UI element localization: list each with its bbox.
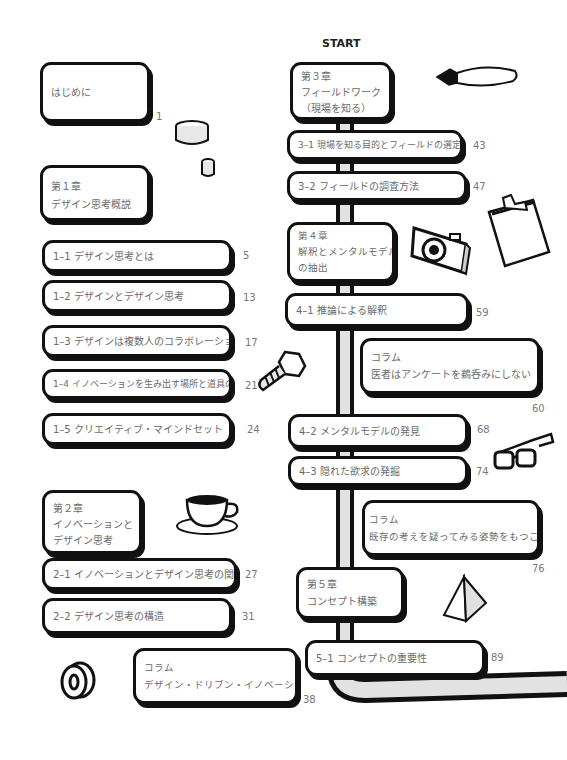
intro-title: はじめに (51, 84, 139, 101)
section-3-1[interactable]: 3–1 現場を知る目的とフィールドの選定 (287, 130, 463, 160)
section-1-3[interactable]: 1–3 デザインは複数人のコラボレーション (42, 325, 232, 357)
camera-icon (410, 220, 472, 276)
section-label: 4–1 推論による解釈 (296, 302, 458, 319)
section-label: 2–1 イノベーションとデザイン思考の関係 (53, 566, 226, 583)
section-1-5[interactable]: 1–5 クリエイティブ・マインドセット (42, 413, 232, 445)
section-1-4[interactable]: 1–4 イノベーションを生み出す場所と道具の確保 (42, 369, 232, 399)
tape-roll-icon (58, 660, 98, 702)
chapter4-title-line2: の抽出 (298, 260, 384, 276)
section-page: 59 (476, 307, 489, 318)
section-label: 1–4 イノベーションを生み出す場所と道具の確保 (53, 376, 221, 393)
column-design-driven[interactable]: コラム デザイン・ドリブン・イノベーション (133, 648, 298, 704)
column-heading: コラム (144, 659, 287, 676)
chapter3-title-line2: （現場を知る） (301, 101, 381, 117)
section-page: 5 (243, 250, 249, 261)
section-1-1[interactable]: 1–1 デザイン思考とは (42, 240, 232, 272)
chapter1-box[interactable]: 第１章 デザイン思考概説 (40, 165, 150, 221)
section-label: 3–2 フィールドの調査方法 (298, 178, 456, 195)
column-page: 38 (303, 694, 316, 705)
section-2-1[interactable]: 2–1 イノベーションとデザイン思考の関係 (42, 558, 237, 590)
section-label: 1–2 デザインとデザイン思考 (53, 288, 221, 305)
glasses-icon (493, 430, 558, 475)
section-label: 1–3 デザインは複数人のコラボレーション (53, 333, 221, 350)
column-title: 医者はアンケートを鵜呑みにしない (371, 366, 529, 383)
section-5-1[interactable]: 5–1 コンセプトの重要性 (305, 640, 485, 676)
cup-icon (172, 120, 222, 180)
section-page: 27 (245, 569, 258, 580)
column-heading: コラム (371, 349, 529, 366)
section-label: 4–3 隠れた欲求の発掘 (299, 463, 457, 480)
chapter5-number: 第５章 (307, 576, 393, 593)
column-title: デザイン・ドリブン・イノベーション (144, 676, 287, 693)
column-page: 60 (532, 403, 545, 414)
section-page: 17 (245, 337, 258, 348)
section-4-1[interactable]: 4–1 推論による解釈 (285, 293, 469, 327)
section-label: 5–1 コンセプトの重要性 (316, 650, 474, 667)
start-label: START (322, 37, 361, 50)
column-page: 76 (532, 563, 545, 574)
section-1-2[interactable]: 1–2 デザインとデザイン思考 (42, 280, 232, 312)
bolt-icon (255, 350, 315, 395)
section-page: 13 (243, 292, 256, 303)
chapter3-box[interactable]: 第３章 フィールドワーク （現場を知る） (290, 62, 392, 120)
section-label: 1–5 クリエイティブ・マインドセット (53, 421, 221, 438)
chapter5-title: コンセプト構築 (307, 593, 393, 610)
column-heading: コラム (369, 511, 533, 528)
chapter2-title-line2: デザイン思考 (53, 533, 131, 549)
pyramid-icon (440, 575, 490, 625)
section-4-3[interactable]: 4–3 隠れた欲求の発掘 (288, 456, 468, 486)
section-page: 43 (473, 140, 486, 151)
coffee-cup-icon (175, 488, 245, 536)
section-label: 2–2 デザイン思考の構造 (53, 608, 221, 625)
chapter3-number: 第３章 (301, 69, 381, 85)
section-label: 4–2 メンタルモデルの発見 (299, 423, 457, 440)
section-page: 89 (491, 652, 504, 663)
intro-box[interactable]: はじめに (40, 62, 150, 122)
chapter1-title: デザイン思考概説 (51, 196, 139, 214)
chapter3-title-line1: フィールドワーク (301, 85, 381, 101)
section-page: 74 (476, 466, 489, 477)
chapter1-number: 第１章 (51, 178, 139, 196)
chapter2-box[interactable]: 第２章 イノベーションと デザイン思考 (42, 490, 142, 554)
section-label: 1–1 デザイン思考とは (53, 248, 221, 265)
chapter4-title-line1: 解釈とメンタルモデル (298, 244, 384, 260)
clipboard-icon (483, 192, 553, 272)
chapter5-box[interactable]: 第５章 コンセプト構築 (296, 567, 404, 619)
chapter4-box[interactable]: 第４章 解釈とメンタルモデル の抽出 (287, 222, 395, 282)
section-2-2[interactable]: 2–2 デザイン思考の構造 (42, 598, 232, 634)
section-page: 24 (247, 424, 260, 435)
pen-nib-icon (435, 65, 520, 95)
section-page: 68 (477, 424, 490, 435)
section-label: 3–1 現場を知る目的とフィールドの選定 (298, 137, 452, 154)
section-4-2[interactable]: 4–2 メンタルモデルの発見 (288, 414, 468, 448)
column-doctor[interactable]: コラム 医者はアンケートを鵜呑みにしない (360, 338, 540, 394)
column-question-existing[interactable]: コラム 既存の考えを疑ってみる姿勢をもつこと (362, 500, 540, 556)
chapter2-title-line1: イノベーションと (53, 517, 131, 533)
column-title: 既存の考えを疑ってみる姿勢をもつこと (369, 528, 533, 545)
chapter2-number: 第２章 (53, 501, 131, 517)
intro-page: 1 (156, 111, 162, 122)
chapter4-number: 第４章 (298, 228, 384, 244)
section-3-2[interactable]: 3–2 フィールドの調査方法 (287, 171, 467, 201)
section-page: 31 (242, 611, 255, 622)
section-page: 47 (473, 181, 486, 192)
